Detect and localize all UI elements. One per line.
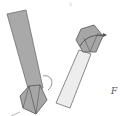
right-prism [56, 25, 107, 108]
right-pentagon-top [76, 25, 103, 52]
left-prism [7, 10, 52, 116]
rotation-arrow-icon [43, 76, 52, 90]
left-pentagon-base [20, 85, 47, 114]
label-f: F [111, 86, 117, 96]
diagram-canvas: s [0, 0, 120, 116]
left-prism-body [7, 10, 43, 92]
top-mark: s [69, 0, 72, 7]
right-prism-body [56, 50, 91, 108]
